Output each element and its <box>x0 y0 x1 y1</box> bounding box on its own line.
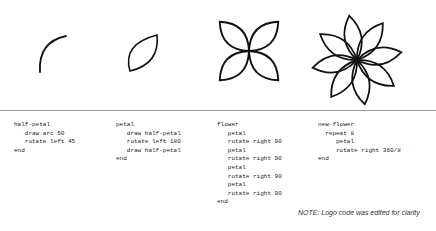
half-petal-drawing <box>40 36 66 72</box>
petal-drawing <box>129 35 158 71</box>
code-flower: flower petal rotate right 90 petal rotat… <box>217 121 282 207</box>
turtle-drawings <box>0 0 436 108</box>
new-flower-drawing <box>311 14 403 106</box>
flower-drawing <box>213 15 285 87</box>
note-text: NOTE: Logo code was edited for clarity <box>298 209 420 216</box>
drawings-panel <box>0 0 436 108</box>
code-petal: petal draw half-petal rotate left 180 dr… <box>116 121 181 164</box>
code-half-petal: half-petal draw arc 50 rotate left 45 en… <box>14 121 75 155</box>
divider <box>0 110 436 111</box>
code-new-flower: new-flower repeat 8 petal rotate right 3… <box>318 121 401 164</box>
